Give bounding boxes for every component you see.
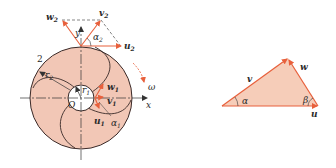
impeller-velocity-diagram: w2 v2 u2 α2 y x ω 2 r2 r1 O w1 v1 u1 α1 …: [0, 0, 336, 168]
label-w2: w2: [46, 12, 58, 23]
label-beta: β: [302, 95, 308, 105]
label-alpha2: α2: [93, 32, 103, 43]
label-origin: O: [68, 100, 76, 110]
label-u2: u2: [124, 41, 135, 52]
label-w: w: [300, 62, 308, 72]
label-u: u: [311, 109, 318, 119]
label-omega: ω: [148, 82, 156, 92]
label-v: v: [247, 74, 253, 84]
label-outlet-2: 2: [37, 54, 43, 64]
label-y-axis: y: [74, 28, 81, 38]
label-v2: v2: [99, 8, 108, 19]
dashed-v2-u2: [101, 20, 120, 45]
label-x-axis: x: [146, 100, 151, 110]
rotation-arrow: [133, 63, 144, 82]
label-alpha: α: [242, 96, 248, 106]
alpha2-arc: [87, 38, 91, 46]
